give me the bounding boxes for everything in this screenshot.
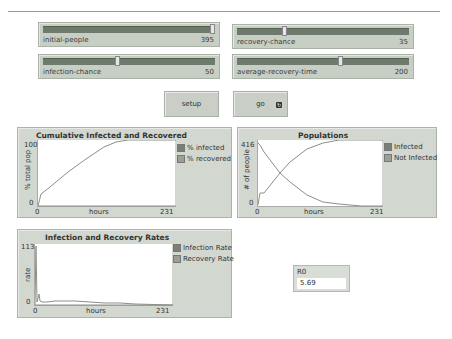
legend-item: Recovery Rate	[173, 253, 234, 264]
monitor-r0: R0 5.69	[293, 265, 350, 292]
plot-lines	[35, 244, 173, 306]
y-min-label: 0	[26, 298, 30, 306]
go-button[interactable]: go ↻	[233, 91, 288, 117]
slider-label: initial-people	[43, 36, 89, 44]
slider-thumb[interactable]	[282, 26, 287, 36]
y-max-label: 416	[241, 141, 254, 149]
y-axis-label: # of people	[243, 149, 251, 190]
legend-item: Infection Rate	[173, 242, 234, 253]
plot-area	[37, 140, 175, 207]
slider-track[interactable]	[43, 58, 215, 65]
monitor-value: 5.69	[297, 278, 346, 289]
x-max-label: 231	[160, 208, 173, 216]
plot-title: Infection and Recovery Rates	[45, 233, 169, 242]
slider-value: 35	[399, 38, 408, 46]
x-axis-label: hours	[89, 208, 109, 216]
x-min-label: 0	[33, 307, 37, 315]
legend-label: Not Infected	[394, 154, 437, 162]
setup-button[interactable]: setup	[164, 91, 219, 117]
legend-swatch	[384, 143, 392, 151]
slider-thumb[interactable]	[338, 56, 343, 66]
plot-legend: Infection Rate Recovery Rate	[173, 242, 234, 264]
forever-icon: ↻	[276, 102, 282, 108]
slider-thumb[interactable]	[115, 56, 120, 66]
plot-area	[34, 244, 172, 306]
plot-populations: Populations 416 0 # of people 0 hours 23…	[237, 127, 437, 218]
slider-infection-chance[interactable]: infection-chance 50	[38, 54, 220, 79]
y-min-label: 0	[249, 199, 253, 207]
x-min-label: 0	[35, 208, 39, 216]
legend-label: % infected	[187, 144, 224, 152]
plot-infection-recovery-rates: Infection and Recovery Rates 113 0 rate …	[17, 229, 232, 318]
slider-value: 395	[201, 36, 214, 44]
legend-swatch	[384, 154, 392, 162]
legend-label: Infection Rate	[183, 244, 232, 252]
setup-button-label: setup	[182, 100, 202, 108]
y-axis-label: rate	[24, 268, 32, 282]
slider-thumb[interactable]	[210, 24, 215, 34]
title-divider	[8, 11, 440, 12]
legend-item: Not Infected	[384, 152, 437, 163]
slider-label: infection-chance	[43, 68, 101, 76]
plot-title: Populations	[298, 131, 348, 140]
plot-lines	[38, 140, 176, 207]
legend-swatch	[173, 255, 181, 263]
legend-label: % recovered	[187, 155, 231, 163]
plot-cumulative-infected-recovered: Cumulative Infected and Recovered 100 0 …	[17, 127, 232, 218]
plot-lines	[258, 140, 383, 207]
legend-item: Infected	[384, 141, 437, 152]
legend-label: Infected	[394, 143, 423, 151]
legend-swatch	[177, 155, 185, 163]
plot-legend: % infected % recovered	[177, 142, 231, 164]
legend-swatch	[173, 244, 181, 252]
monitor-label: R0	[297, 268, 306, 276]
slider-track[interactable]	[43, 26, 215, 33]
legend-item: % infected	[177, 142, 231, 153]
x-axis-label: hours	[86, 307, 106, 315]
y-min-label: 0	[29, 199, 33, 207]
slider-average-recovery-time[interactable]: average-recovery-time 200	[232, 54, 414, 79]
y-max-label: 100	[24, 141, 37, 149]
slider-label: recovery-chance	[237, 38, 295, 46]
slider-value: 50	[205, 68, 214, 76]
x-max-label: 231	[156, 307, 169, 315]
plot-area	[257, 140, 382, 207]
x-axis-label: hours	[304, 208, 324, 216]
legend-label: Recovery Rate	[183, 255, 234, 263]
slider-label: average-recovery-time	[237, 68, 317, 76]
plot-title: Cumulative Infected and Recovered	[36, 131, 187, 140]
x-max-label: 231	[370, 208, 383, 216]
legend-swatch	[177, 144, 185, 152]
slider-track[interactable]	[237, 28, 409, 35]
x-min-label: 0	[255, 208, 259, 216]
y-axis-label: % total pop	[24, 150, 32, 190]
slider-recovery-chance[interactable]: recovery-chance 35	[232, 24, 414, 49]
slider-track[interactable]	[237, 58, 409, 65]
y-max-label: 113	[21, 243, 34, 251]
slider-value: 200	[395, 68, 408, 76]
go-button-label: go	[256, 100, 265, 108]
plot-legend: Infected Not Infected	[384, 141, 437, 163]
legend-item: % recovered	[177, 153, 231, 164]
slider-initial-people[interactable]: initial-people 395	[38, 22, 220, 47]
